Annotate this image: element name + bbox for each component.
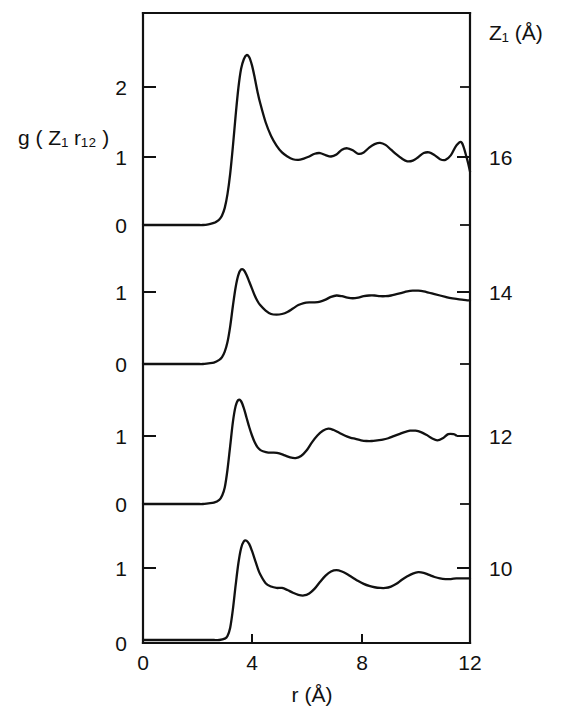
xtick-label: 0 — [137, 651, 149, 674]
curve-group — [143, 55, 470, 640]
curve-z-14 — [143, 269, 470, 364]
curve-z-16 — [143, 55, 470, 225]
ytick-label: 2 — [115, 76, 127, 99]
ytick-label: 0 — [115, 632, 127, 655]
ytick-label: 1 — [115, 146, 127, 169]
ytick-label: 1 — [115, 557, 127, 580]
ytick-label: 0 — [115, 353, 127, 376]
x-axis-ticks — [143, 631, 470, 643]
z-tick-label: 10 — [489, 557, 512, 580]
pair-distribution-function-figure: 2 1 0 1 0 1 0 1 0 16 14 12 10 — [0, 0, 565, 712]
z-tick-label: 16 — [489, 146, 512, 169]
left-axis-ticklabels: 2 1 0 1 0 1 0 1 0 — [115, 76, 127, 655]
chart-svg: 2 1 0 1 0 1 0 1 0 16 14 12 10 — [0, 0, 565, 712]
x-axis-ticklabels: 0 4 8 12 — [137, 651, 482, 674]
ytick-label: 0 — [115, 493, 127, 516]
right-axis-ticklabels: 16 14 12 10 — [489, 146, 513, 580]
z-tick-label: 12 — [489, 425, 512, 448]
ytick-label: 0 — [115, 214, 127, 237]
curve-z-10 — [143, 540, 470, 640]
y-axis-title: g ( Z₁ r₁₂ ) — [18, 126, 109, 149]
xtick-label: 4 — [246, 651, 258, 674]
xtick-label: 8 — [356, 651, 368, 674]
xtick-label: 12 — [458, 651, 481, 674]
curve-z-12 — [143, 400, 456, 504]
x-axis-title: r (Å) — [292, 683, 333, 706]
z-tick-label: 14 — [489, 281, 513, 304]
ytick-label: 1 — [115, 281, 127, 304]
y2-axis-title: Z₁ (Å) — [489, 21, 543, 44]
plot-frame — [143, 13, 470, 643]
left-axis-ticks — [143, 87, 163, 568]
ytick-label: 1 — [115, 425, 127, 448]
